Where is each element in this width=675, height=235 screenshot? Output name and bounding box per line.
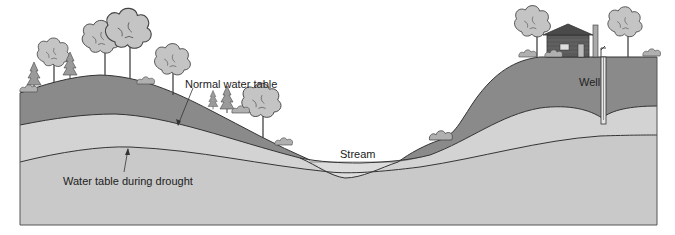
conifer-icon: [208, 90, 218, 109]
window: [560, 44, 569, 50]
shrub-icon: [137, 77, 155, 84]
shrub-icon: [643, 49, 661, 56]
chimney: [593, 25, 598, 57]
shrub-icon: [232, 106, 250, 113]
tree-icon: [514, 6, 550, 57]
shrub-icon: [429, 131, 452, 140]
shrub-icon: [519, 50, 537, 57]
well: [601, 46, 606, 124]
drought-water-table-label: Water table during drought: [63, 175, 193, 187]
groundwater-diagram: Normal water table Water table during dr…: [0, 0, 675, 235]
tree-icon: [608, 7, 642, 57]
tree-icon: [37, 38, 70, 82]
stream-label: Stream: [340, 148, 375, 160]
normal-water-table-label: Normal water table: [185, 78, 277, 90]
well-label: Well: [579, 76, 600, 88]
conifer-icon: [220, 86, 234, 113]
well-pump-icon: [601, 46, 606, 57]
door: [578, 44, 584, 57]
shrub-icon: [275, 138, 293, 145]
shrub-icon: [20, 85, 38, 92]
